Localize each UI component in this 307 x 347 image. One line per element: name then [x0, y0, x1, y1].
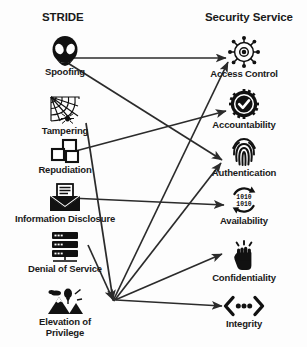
server-stack-icon — [47, 231, 83, 263]
node-label-elevation-of-privilege: Elevation of Privilege — [39, 317, 91, 338]
spiderweb-spider-icon — [47, 95, 83, 125]
node-label-availability: Availability — [220, 216, 268, 227]
svg-text:1010: 1010 — [236, 201, 252, 208]
column-header-stride: STRIDE — [42, 11, 84, 23]
node-tampering[interactable]: Tampering — [6, 95, 124, 137]
node-label-access-control: Access Control — [210, 69, 278, 80]
node-spoofing[interactable]: Spoofing — [6, 36, 124, 78]
binary-refresh-icon: 1010 1010 — [227, 185, 261, 215]
node-repudiation[interactable]: Repudiation — [6, 138, 124, 176]
hand-stop-icon — [228, 240, 260, 272]
node-information-disclosure[interactable]: Information Disclosure — [6, 183, 124, 225]
node-label-spoofing: Spoofing — [45, 67, 85, 78]
node-label-information-disclosure: Information Disclosure — [15, 214, 115, 225]
angle-brackets-dots-icon — [222, 294, 266, 318]
gear-checkmark-icon — [228, 89, 260, 119]
node-label-accountability: Accountability — [212, 120, 275, 131]
node-confidentiality[interactable]: Confidentiality — [185, 240, 303, 284]
overlapping-squares-icon — [43, 138, 87, 164]
stride-security-service-diagram: STRIDE Security Service — [0, 0, 307, 347]
node-access-control[interactable]: Access Control — [185, 36, 303, 80]
mountain-balloon-icon — [45, 288, 85, 316]
node-label-integrity: Integrity — [226, 319, 262, 330]
open-envelope-document-icon — [47, 183, 83, 213]
node-denial-of-service[interactable]: Denial of Service — [6, 231, 124, 275]
node-label-tampering: Tampering — [42, 126, 89, 137]
node-availability[interactable]: 1010 1010 Availability — [185, 185, 303, 227]
node-label-confidentiality: Confidentiality — [212, 273, 276, 284]
node-label-repudiation: Repudiation — [38, 165, 91, 176]
node-integrity[interactable]: Integrity — [185, 294, 303, 330]
node-label-authentication: Authentication — [212, 168, 276, 179]
ship-helm-icon — [227, 36, 261, 68]
alien-head-icon — [48, 36, 82, 66]
node-authentication[interactable]: Authentication — [185, 137, 303, 179]
node-elevation-of-privilege[interactable]: Elevation of Privilege — [6, 288, 124, 338]
node-label-denial-of-service: Denial of Service — [28, 264, 102, 275]
fingerprint-icon — [231, 137, 257, 167]
column-header-security-service: Security Service — [205, 11, 293, 23]
node-accountability[interactable]: Accountability — [185, 89, 303, 131]
